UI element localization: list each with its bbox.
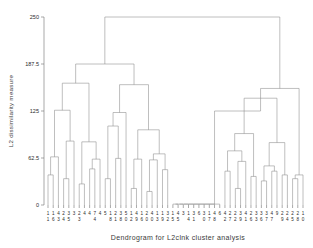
leaf-label-bottom: 0 [146,217,149,222]
leaf-labels: 1116432435323447445182138501249162040131… [47,211,305,222]
leaf-label-top: 2 [78,211,81,216]
dendrogram-link [261,181,266,205]
leaf-label-top: 3 [265,211,268,216]
leaf-label-top: 4 [135,211,138,216]
leaf-label-top: 3 [166,211,169,216]
dendrogram-link [92,159,100,205]
leaf-label-top: 5 [104,211,107,216]
leaf-label-top: 6 [198,211,201,216]
leaf-label-bottom: 2 [166,217,169,222]
leaf-label-top: 1 [302,211,305,216]
dendrogram-link [120,85,149,130]
y-tick-label-187: 187.5 [25,61,39,67]
leaf-label-bottom: 3 [255,217,258,222]
y-tick-label-125: 125 [30,108,39,114]
dendrogram-link [48,175,53,205]
dendrogram-link [105,17,280,88]
leaf-label-top: 1 [130,211,133,216]
leaf-label-top: 3 [260,211,263,216]
leaf-label-bottom: 7 [265,217,268,222]
dendrogram-link [162,170,167,205]
leaf-label-bottom: 6 [250,217,253,222]
leaf-label-bottom: 3 [156,217,159,222]
leaf-label-top: 2 [250,211,253,216]
dendrogram-link [105,179,110,205]
y-tick-label-250: 250 [30,14,39,20]
leaf-label-bottom: 9 [281,217,284,222]
leaf-label-bottom: 2 [130,217,133,222]
leaf-label-top: 1 [172,211,175,216]
leaf-label-bottom: 5 [172,217,175,222]
leaf-label-top: 2 [114,211,117,216]
leaf-label-top: 3 [192,211,195,216]
leaf-label-bottom: 6 [140,217,143,222]
dendrogram-links [48,17,303,205]
leaf-label-bottom: 0 [302,217,305,222]
leaf-label-top: 6 [218,211,221,216]
dendrogram-link [51,157,59,205]
dendrogram-link [264,166,274,181]
dendrogram-link [149,160,157,205]
leaf-label-top: 4 [224,211,227,216]
leaf-label-top: 1 [208,211,211,216]
dendrogram-link [62,83,89,142]
leaf-label-bottom: 6 [52,217,55,222]
leaf-label-top: 3 [120,211,123,216]
leaf-label-bottom: 0 [125,217,128,222]
dendrogram-link [295,175,303,205]
leaf-label-bottom: 5 [68,217,71,222]
dendrogram-link [272,171,277,205]
dendrogram-link [82,142,96,184]
leaf-label-top: 3 [73,211,76,216]
leaf-label-top: 2 [234,211,237,216]
dendrogram-link [138,130,159,159]
leaf-label-bottom: 2 [224,217,227,222]
dendrogram-link [228,151,242,171]
dendrogram-link [282,175,287,205]
leaf-label-top: 1 [187,211,190,216]
dendrogram-link [251,176,256,205]
leaf-label-bottom: 0 [151,217,154,222]
leaf-label-bottom: 9 [135,217,138,222]
leaf-label-bottom: 7 [270,217,273,222]
dendrogram-link [293,179,298,205]
dendrogram-link [90,169,95,205]
leaf-label-bottom: 6 [260,217,263,222]
x-axis-title: Dendrogram for L2clnk cluster analysis [111,234,245,242]
leaf-label-bottom: 9 [239,217,242,222]
dendrogram-link [76,64,134,85]
dendrogram-link [225,171,230,205]
leaf-label-top: 4 [57,211,60,216]
leaf-label-bottom: 1 [192,217,195,222]
leaf-label-top: 2 [146,211,149,216]
dendrogram-link [269,143,285,175]
leaf-label-top: 5 [125,211,128,216]
leaf-label-bottom: 1 [114,217,117,222]
dendrogram-link [153,154,165,170]
leaf-label-top: 4 [270,211,273,216]
leaf-label-bottom: 0 [203,217,206,222]
y-tick-label-62: 62.5 [28,155,39,161]
dendrogram-link [134,159,142,205]
leaf-label-bottom: 5 [291,217,294,222]
dendrogram-link [108,126,118,179]
leaf-label-bottom: 1 [47,217,50,222]
leaf-label-top: 2 [62,211,65,216]
leaf-label-top: 4 [213,211,216,216]
leaf-label-top: 2 [286,211,289,216]
leaf-label-top: 1 [47,211,50,216]
dendrogram-plot: 250 187.5 125 62.5 0 L2 dissimilarity me… [0,0,313,248]
leaf-label-top: 4 [99,211,102,216]
leaf-label-bottom: 7 [208,217,211,222]
leaf-label-top: 2 [281,211,284,216]
leaf-label-bottom: 3 [57,217,60,222]
leaf-label-top: 1 [52,211,55,216]
dendrogram-link [235,134,254,177]
leaf-label-top: 2 [229,211,232,216]
leaf-label-top: 4 [244,211,247,216]
dendrogram-link [238,161,246,205]
leaf-label-bottom: 2 [234,217,237,222]
leaf-label-top: 1 [161,211,164,216]
leaf-label-bottom: 4 [187,217,190,222]
leaf-label-top: 4 [83,211,86,216]
